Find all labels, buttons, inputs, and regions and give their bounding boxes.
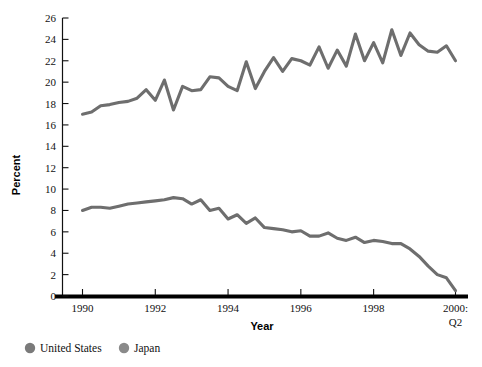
legend-label: Japan — [134, 342, 160, 355]
y-axis-tick-label: 14 — [45, 140, 57, 152]
y-axis-tick-label: 12 — [45, 162, 56, 174]
y-axis-tick-labels: 02468101214161820222426 — [45, 12, 57, 302]
x-axis-tick-label: 1992 — [144, 302, 166, 314]
y-axis-tick-label: 22 — [45, 55, 56, 67]
series-line-japan — [83, 30, 456, 114]
y-axis-title: Percent — [10, 154, 22, 195]
y-axis-tick-label: 18 — [45, 98, 57, 110]
series-lines — [83, 30, 456, 291]
chart-legend: United StatesJapan — [25, 342, 161, 355]
x-axis-tick-label: 1994 — [217, 302, 240, 314]
x-axis-tick-label: 1998 — [363, 302, 386, 314]
y-axis-tick-label: 16 — [45, 119, 57, 131]
x-axis-tick-label: 1990 — [72, 302, 95, 314]
y-axis-tick-label: 26 — [45, 12, 57, 24]
y-axis-tick-label: 0 — [51, 290, 57, 302]
y-axis-tick-label: 20 — [45, 76, 57, 88]
y-axis-tick-label: 8 — [51, 204, 57, 216]
x-axis-tick-label: 2000: — [443, 302, 468, 314]
line-chart: 02468101214161820222426 1990199219941996… — [0, 0, 482, 367]
y-axis-tick-label: 10 — [45, 183, 57, 195]
x-axis-ticks — [83, 289, 456, 295]
series-line-united-states — [83, 198, 456, 291]
x-axis-title: Year — [250, 320, 274, 332]
chart-plot-area: 02468101214161820222426 1990199219941996… — [0, 0, 482, 367]
x-axis-tick-label-secondline: Q2 — [449, 316, 462, 328]
y-axis-ticks — [63, 18, 69, 296]
y-axis-tick-label: 24 — [45, 33, 57, 45]
legend-marker-icon — [119, 343, 129, 353]
legend-marker-icon — [25, 343, 35, 353]
y-axis-tick-label: 2 — [51, 269, 57, 281]
y-axis-tick-label: 4 — [51, 247, 57, 259]
y-axis-tick-label: 6 — [51, 226, 57, 238]
legend-label: United States — [40, 342, 102, 354]
x-axis-tick-label: 1996 — [290, 302, 313, 314]
